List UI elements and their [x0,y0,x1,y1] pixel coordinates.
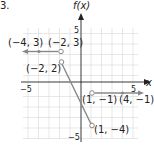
left-arrow-icon [22,49,28,54]
x-tick-neg5: −5 [20,85,32,94]
point-neg4-3 [37,50,40,53]
y-tick-5: 5 [74,26,79,35]
x-axis-label: x [145,77,152,88]
label-neg4-3: (−4, 3) [8,37,43,48]
y-tick-neg5: −5 [68,133,80,142]
label-neg2-3: (−2, 3) [48,37,83,48]
label-neg2-2: (−2, 2) [26,63,61,74]
y-axis-arrow-icon [78,13,84,20]
open-point-neg2-3 [59,49,64,54]
function-graph: 3. x f(x) −5 5 5 −5 [0,0,154,145]
label-1-neg1: (1, −1) [82,94,117,105]
y-axis-label: f(x) [73,0,90,11]
label-4-neg1: (4, −1) [119,94,154,105]
problem-number: 3. [0,0,10,11]
label-1-neg4: (1, −4) [94,124,129,135]
